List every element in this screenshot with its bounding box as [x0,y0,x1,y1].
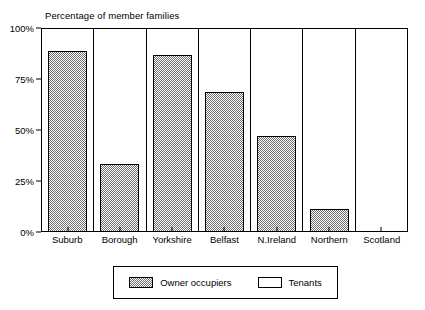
legend-item: Owner occupiers [129,277,231,288]
bar-owner-occupiers [153,55,192,231]
x-axis-label: Belfast [198,234,250,245]
bar-column [42,29,94,231]
y-axis: 0%25%50%75%100% [0,28,41,232]
chart-canvas: Percentage of member families 0%25%50%75… [0,0,425,310]
x-axis-tick [67,227,68,231]
x-axis-tick [329,227,330,231]
x-axis-label: N.Ireland [251,234,303,245]
legend-swatch-owner [129,277,153,288]
bar-owner-occupiers [257,136,296,231]
bar-owner-occupiers [205,92,244,231]
bar-column [199,29,251,231]
y-axis-tick-label: 75% [15,74,34,85]
x-axis-label: Northern [303,234,355,245]
chart-title: Percentage of member families [45,10,179,21]
bar-columns [42,29,407,231]
plot-area [41,28,408,232]
legend-swatch-tenants [258,277,282,288]
x-axis-label: Yorkshire [146,234,198,245]
x-axis-tick [276,227,277,231]
bar-column [356,29,407,231]
y-axis-tick-label: 0% [20,227,34,238]
y-axis-tick-label: 25% [15,176,34,187]
legend-item: Tenants [258,277,322,288]
bar-column [303,29,355,231]
x-axis-tick [119,227,120,231]
x-axis-tick [224,227,225,231]
x-axis-label: Borough [93,234,145,245]
x-axis-label: Suburb [41,234,93,245]
x-axis-tick [172,227,173,231]
bar-column [251,29,303,231]
bar-owner-occupiers [48,51,87,231]
legend-label: Tenants [289,277,322,288]
x-axis-label: Scotland [356,234,408,245]
bar-column [94,29,146,231]
x-axis-labels: SuburbBoroughYorkshireBelfastN.IrelandNo… [41,234,408,245]
legend-label: Owner occupiers [160,277,231,288]
y-axis-tick-label: 50% [15,125,34,136]
bar-owner-occupiers [100,164,139,231]
bar-column [147,29,199,231]
x-axis-tick [381,227,382,231]
y-axis-tick-label: 100% [10,23,34,34]
chart-legend: Owner occupiersTenants [113,266,338,299]
